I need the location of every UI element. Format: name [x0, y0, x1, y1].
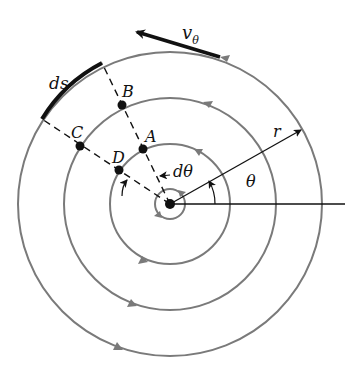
- vortex-diagram: ds B A C D dθ r θ vθ: [0, 0, 358, 368]
- diagram-canvas: [0, 0, 358, 368]
- label-ds: ds: [49, 75, 69, 92]
- point-B: [118, 101, 127, 110]
- label-v: v: [182, 22, 192, 43]
- label-A: A: [145, 129, 157, 145]
- label-v-theta: vθ: [182, 24, 199, 46]
- label-C: C: [71, 125, 83, 141]
- dtheta-tick-arrow: [160, 175, 170, 176]
- label-r: r: [273, 124, 281, 140]
- label-D: D: [112, 150, 125, 166]
- theta-arc: [209, 181, 215, 204]
- label-theta: θ: [246, 174, 256, 190]
- label-dtheta: dθ: [173, 164, 193, 180]
- rotation-arrow: [122, 180, 127, 196]
- arrowhead-icon: [127, 299, 137, 307]
- label-B: B: [122, 84, 134, 100]
- radial-line-AB: [102, 63, 170, 204]
- vortex-center: [165, 199, 175, 209]
- point-C: [76, 142, 85, 151]
- label-v-subscript: θ: [192, 34, 199, 47]
